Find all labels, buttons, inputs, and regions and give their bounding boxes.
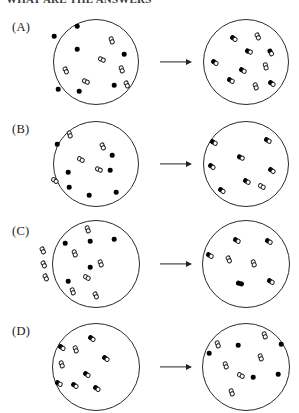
vessel-before [53,121,139,207]
before-molecule [39,245,46,254]
arrow-head [186,261,192,267]
vessel-after [202,323,290,411]
before-atom [66,279,71,284]
before-atom [67,185,72,190]
arrow-head [186,364,192,370]
before-atom [52,34,57,39]
arrow-shaft [160,61,187,62]
arrow-shaft [160,366,187,367]
reaction-arrow-icon [160,57,192,67]
before-atom [114,190,119,195]
before-atom [63,241,68,246]
before-atom [75,24,80,29]
after-atom [279,342,284,347]
before-atom [112,237,117,242]
molecule-lobe-right [264,65,270,71]
choice-label: (B) [12,122,30,137]
before-atom [122,52,127,57]
before-atom [112,83,117,88]
figure-canvas: WHAT ARE THE ANSWERS(A)(B)(C)(D) [0,0,299,413]
arrow-shaft [160,263,187,264]
vessel-after [203,121,289,207]
choice-label: (A) [12,20,30,35]
before-atom [88,239,93,244]
reaction-arrow-icon [160,159,192,169]
after-atom [207,351,212,356]
before-atom [66,170,71,175]
vessel-before [53,19,139,105]
before-atom [87,193,92,198]
after-atom [236,343,241,348]
reaction-arrow-icon [160,362,192,372]
molecule-lobe-right [44,275,50,281]
before-atom [56,87,61,92]
arrow-head [186,59,192,65]
vessel-after [202,220,290,308]
before-molecule [40,259,47,268]
molecule-lobe-right [42,262,48,268]
before-atom [55,142,60,147]
before-atom [75,47,80,52]
arrow-head [186,161,192,167]
before-atom [88,265,93,270]
molecule-lobe-right [41,248,47,254]
clipped-header: WHAT ARE THE ANSWERS [0,0,299,7]
clipped-header-text: WHAT ARE THE ANSWERS [6,0,152,5]
reaction-arrow-icon [160,259,192,269]
after-atom [251,375,256,380]
choice-label: (D) [12,324,30,339]
before-atom [108,168,113,173]
arrow-shaft [160,163,187,164]
before-atom [110,153,115,158]
before-atom [77,89,82,94]
after-atom [276,372,281,377]
before-molecule [42,272,49,281]
choice-label: (C) [12,224,30,239]
